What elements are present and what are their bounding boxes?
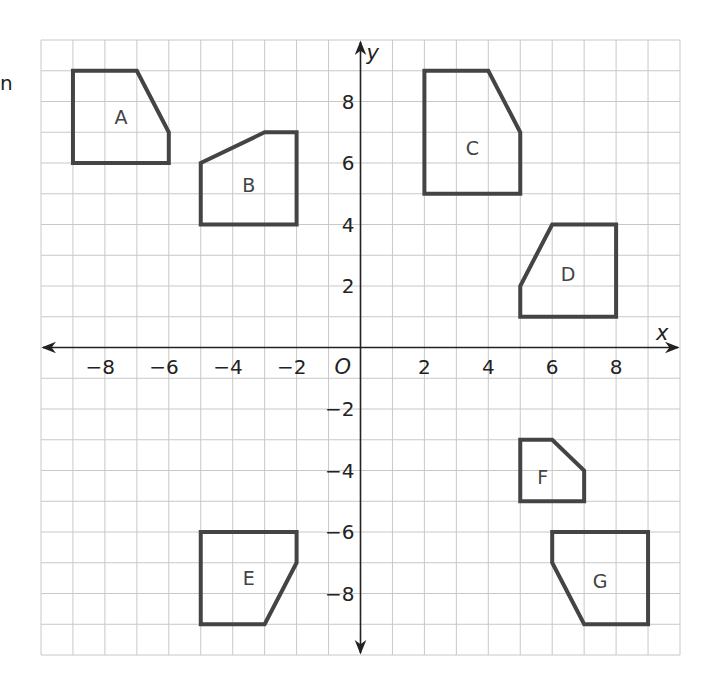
shape-label: D	[561, 263, 576, 285]
x-tick-label: −8	[85, 355, 114, 379]
x-tick-label: 4	[482, 355, 495, 379]
y-tick-label: 8	[342, 90, 355, 114]
axes: x y O	[43, 41, 678, 653]
x-tick-label: 6	[546, 355, 559, 379]
y-axis-label: y	[366, 41, 380, 65]
x-tick-label: −4	[213, 355, 242, 379]
coordinate-plane: x y O −8−6−4−224688642−2−4−6−8 ABCDEFG	[0, 0, 716, 691]
shape-label: B	[242, 174, 255, 196]
x-axis-label: x	[655, 321, 669, 345]
shape-label: C	[466, 137, 479, 159]
shape-label: A	[114, 106, 127, 128]
shape-d: D	[520, 225, 616, 317]
x-tick-label: −6	[149, 355, 178, 379]
y-tick-label: −4	[325, 459, 354, 483]
x-tick-label: 2	[418, 355, 431, 379]
shape-e: E	[201, 532, 297, 624]
shape-label: E	[243, 567, 255, 589]
shape-label: G	[593, 570, 608, 592]
y-tick-label: −6	[325, 520, 354, 544]
shape-label: F	[537, 466, 548, 488]
y-tick-label: −8	[325, 582, 354, 606]
y-tick-label: 6	[342, 151, 355, 175]
y-tick-label: 2	[342, 274, 355, 298]
y-tick-label: −2	[325, 397, 354, 421]
x-tick-label: −2	[277, 355, 306, 379]
shape-a: A	[73, 71, 169, 163]
shape-g: G	[552, 532, 648, 624]
y-tick-label: 4	[342, 213, 355, 237]
origin-label: O	[335, 355, 352, 379]
x-tick-label: 8	[610, 355, 623, 379]
shape-b: B	[201, 132, 297, 224]
